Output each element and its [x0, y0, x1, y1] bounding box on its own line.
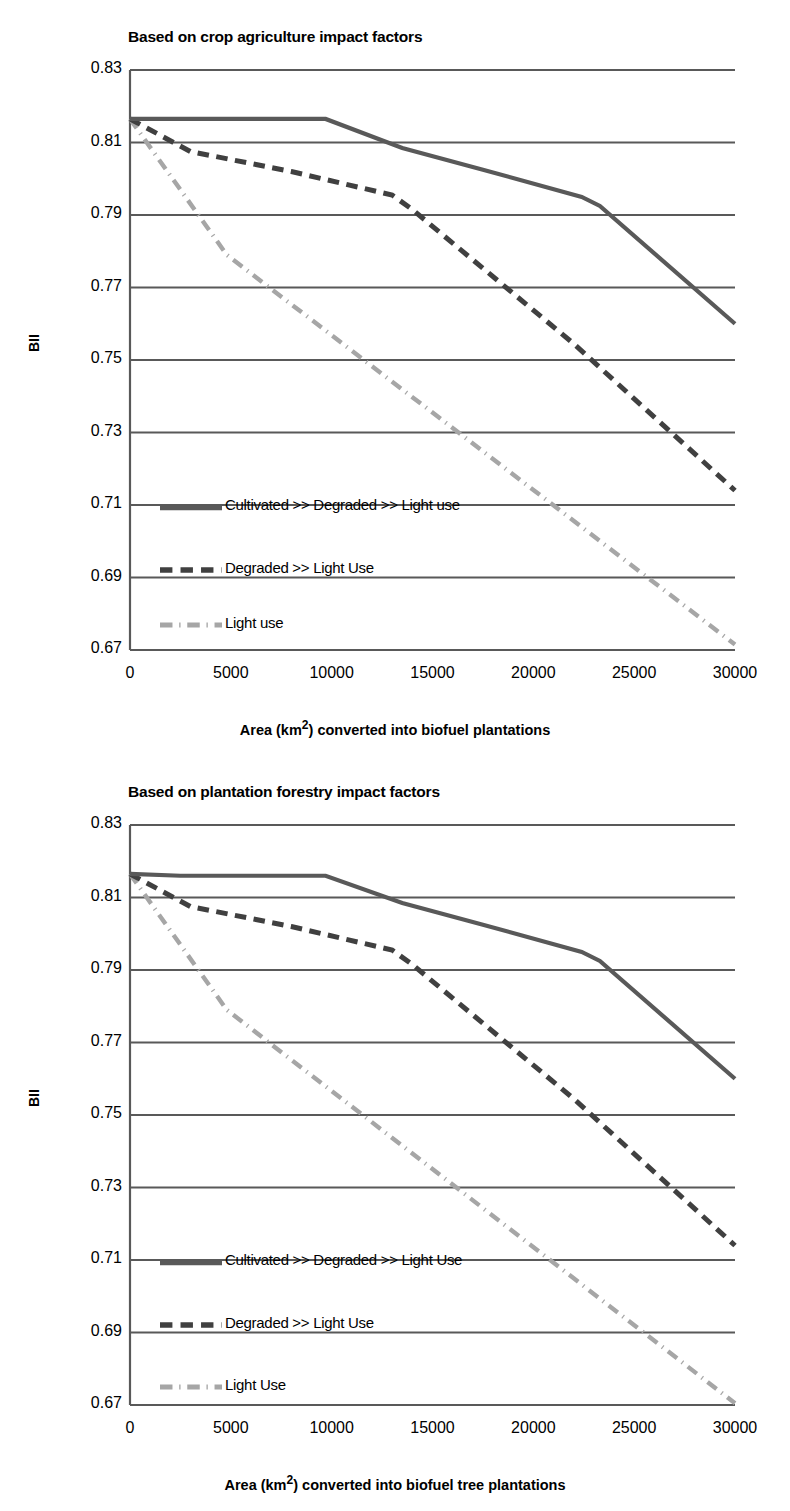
y-tick-label: 0.73: [48, 1177, 122, 1195]
y-tick-label: 0.69: [48, 1322, 122, 1340]
x-tick-label: 0: [85, 1419, 175, 1437]
y-tick-label: 0.67: [48, 639, 122, 657]
series-line: [130, 119, 735, 491]
x-tick-label: 20000: [488, 664, 578, 682]
series-line: [130, 874, 735, 1403]
x-tick-label: 0: [85, 664, 175, 682]
x-tick-label: 10000: [287, 664, 377, 682]
y-tick-label: 0.79: [48, 959, 122, 977]
legend-entry-label: Cultivated >> Degraded >> Light Use: [225, 1252, 475, 1269]
x-axis-label-post: ) converted into biofuel plantations: [309, 722, 551, 738]
y-tick-label: 0.79: [48, 204, 122, 222]
chart-panel-plantation-forestry: Based on plantation forestry impact fact…: [0, 755, 790, 1511]
x-tick-label: 20000: [488, 1419, 578, 1437]
x-axis-label: Area (km2) converted into biofuel tree p…: [0, 1473, 790, 1493]
x-axis-label-pre: Area (km: [240, 722, 302, 738]
y-tick-label: 0.71: [48, 494, 122, 512]
plot-area: 0.830.810.790.770.750.730.710.690.670500…: [0, 0, 790, 700]
x-tick-label: 25000: [589, 664, 679, 682]
x-tick-label: 10000: [287, 1419, 377, 1437]
x-tick-label: 5000: [186, 1419, 276, 1437]
y-tick-label: 0.81: [48, 887, 122, 905]
y-tick-label: 0.67: [48, 1394, 122, 1412]
y-tick-label: 0.75: [48, 1104, 122, 1122]
y-tick-label: 0.73: [48, 422, 122, 440]
x-tick-label: 25000: [589, 1419, 679, 1437]
legend-entry-label: Degraded >> Light Use: [225, 1314, 374, 1331]
x-tick-label: 30000: [690, 1419, 780, 1437]
y-tick-label: 0.83: [48, 814, 122, 832]
y-tick-label: 0.71: [48, 1249, 122, 1267]
x-tick-label: 5000: [186, 664, 276, 682]
y-tick-label: 0.81: [48, 132, 122, 150]
x-axis-label: Area (km2) converted into biofuel planta…: [0, 718, 790, 738]
chart-panel-crop-agriculture: Based on crop agriculture impact factors…: [0, 0, 790, 755]
legend-entry-label: Light Use: [225, 1376, 286, 1393]
y-tick-label: 0.75: [48, 349, 122, 367]
legend-entry-label: Light use: [225, 614, 283, 631]
y-tick-label: 0.77: [48, 1032, 122, 1050]
x-tick-label: 15000: [388, 664, 478, 682]
legend-entry-label: Degraded >> Light Use: [225, 559, 374, 576]
x-axis-label-superscript: 2: [302, 718, 309, 732]
plot-area: 0.830.810.790.770.750.730.710.690.670500…: [0, 755, 790, 1455]
x-axis-label-pre: Area (km: [224, 1477, 286, 1493]
x-tick-label: 15000: [388, 1419, 478, 1437]
series-line: [130, 874, 735, 1246]
series-line: [130, 119, 735, 324]
series-line: [130, 119, 735, 645]
series-line: [130, 874, 735, 1079]
y-tick-label: 0.69: [48, 567, 122, 585]
figure-two-line-charts: Based on crop agriculture impact factors…: [0, 0, 790, 1511]
legend-entry-label: Cultivated >> Degraded >> Light use: [225, 497, 475, 514]
y-tick-label: 0.83: [48, 59, 122, 77]
x-axis-label-post: ) converted into biofuel tree plantation…: [293, 1477, 565, 1493]
x-tick-label: 30000: [690, 664, 780, 682]
y-tick-label: 0.77: [48, 277, 122, 295]
